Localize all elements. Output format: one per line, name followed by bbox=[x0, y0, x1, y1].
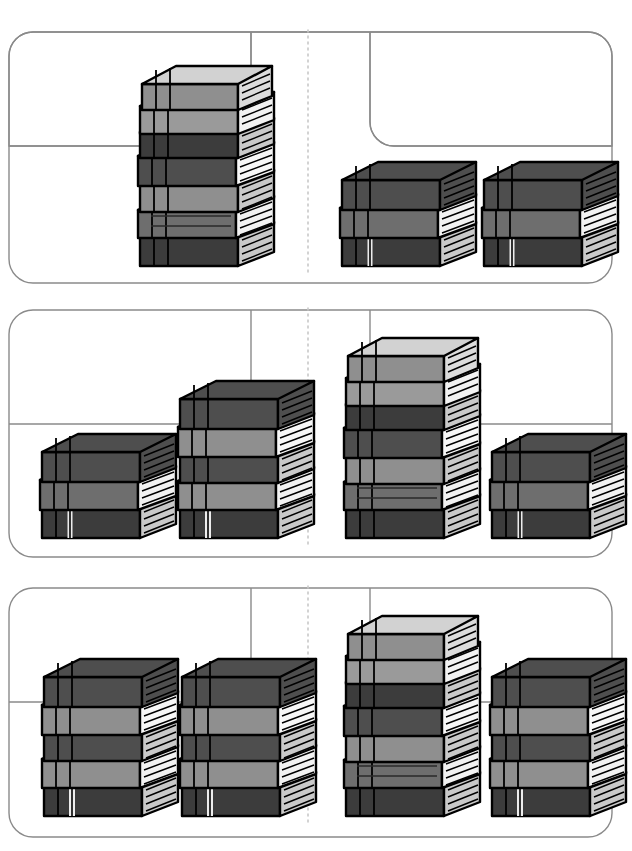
book-1 bbox=[42, 434, 176, 482]
book-stack-7[interactable] bbox=[332, 312, 492, 542]
book-stack-3[interactable] bbox=[28, 422, 178, 542]
book-1 bbox=[180, 381, 314, 429]
stack-5-art bbox=[166, 367, 326, 542]
book-1 bbox=[492, 434, 626, 482]
book-stack-5-b[interactable] bbox=[168, 645, 328, 820]
book-1 bbox=[484, 162, 618, 210]
book-stack-3-b[interactable] bbox=[470, 150, 620, 270]
stack-3-right-art bbox=[478, 422, 628, 542]
worksheet-card-row-2[interactable] bbox=[8, 296, 613, 558]
stack-5-b-art bbox=[168, 645, 328, 820]
book-1 bbox=[142, 66, 272, 110]
book-1 bbox=[492, 659, 626, 707]
book-stack-7[interactable] bbox=[126, 40, 286, 270]
stack-7-art bbox=[332, 312, 492, 542]
worksheet-card-row-3[interactable] bbox=[8, 574, 613, 838]
book-1 bbox=[348, 616, 478, 660]
book-stack-5-a[interactable] bbox=[30, 645, 190, 820]
book-1 bbox=[342, 162, 476, 210]
book-1 bbox=[348, 338, 478, 382]
stack-7-right-art bbox=[332, 590, 492, 820]
book-1 bbox=[182, 659, 316, 707]
book-stack-5-right[interactable] bbox=[478, 645, 632, 820]
stack-3-art bbox=[28, 422, 178, 542]
book-stack-5[interactable] bbox=[166, 367, 326, 542]
stack-3-b-art bbox=[470, 150, 620, 270]
book-1 bbox=[44, 659, 178, 707]
book-stack-7-right[interactable] bbox=[332, 590, 492, 820]
worksheet-card-row-1[interactable] bbox=[8, 18, 613, 284]
book-stack-3-right[interactable] bbox=[478, 422, 628, 542]
book-stack-3-a[interactable] bbox=[328, 150, 478, 270]
stack-7-art bbox=[126, 40, 286, 270]
stack-5-a-art bbox=[30, 645, 190, 820]
stack-5-right-art bbox=[478, 645, 632, 820]
stack-3-a-art bbox=[328, 150, 478, 270]
